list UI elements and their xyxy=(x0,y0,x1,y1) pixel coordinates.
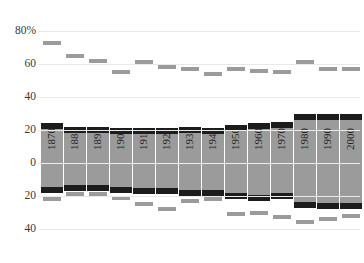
y-axis-tick-label: 40 xyxy=(4,223,36,235)
bar-top-cap xyxy=(294,114,316,120)
lower-marker-1910 xyxy=(135,202,153,206)
lower-marker-1950 xyxy=(227,212,245,216)
bar-top-cap xyxy=(271,122,293,128)
upper-marker-1940 xyxy=(204,72,222,76)
upper-marker-1930 xyxy=(181,67,199,71)
gridline-0-4 xyxy=(38,163,360,164)
bar-bottom-cap xyxy=(133,188,155,194)
upper-marker-1970 xyxy=(273,70,291,74)
lower-marker-1990 xyxy=(319,217,337,221)
upper-marker-1990 xyxy=(319,67,337,71)
bar-label-1880: 1880 xyxy=(69,128,80,150)
bar-label-1990: 1990 xyxy=(322,128,333,150)
range-bar-chart: 80%60402002040 1870188018901900191019201… xyxy=(0,0,364,263)
gridline-80-0 xyxy=(38,31,360,32)
upper-marker-1880 xyxy=(66,54,84,58)
bar-label-1890: 1890 xyxy=(92,128,103,150)
bar-label-1910: 1910 xyxy=(138,128,149,150)
bar-bottom-cap xyxy=(87,185,109,191)
gridline-20-3 xyxy=(38,130,360,131)
bar-label-1980: 1980 xyxy=(299,128,310,150)
lower-marker-1930 xyxy=(181,199,199,203)
bar-label-1970: 1970 xyxy=(276,128,287,150)
y-axis-tick-label: 40 xyxy=(4,91,36,103)
upper-marker-1960 xyxy=(250,69,268,73)
lower-marker-2000 xyxy=(342,214,360,218)
upper-marker-1900 xyxy=(112,70,130,74)
gridline-60-1 xyxy=(38,64,360,65)
bar-bottom-cap xyxy=(41,187,63,193)
bar-label-1960: 1960 xyxy=(253,128,264,150)
bar-top-cap xyxy=(317,114,339,120)
bar-label-1900: 1900 xyxy=(115,128,126,150)
bar-bottom-cap xyxy=(294,202,316,208)
bar-bottom-cap xyxy=(110,187,132,193)
bar-bottom-cap xyxy=(317,203,339,209)
upper-marker-2000 xyxy=(342,67,360,71)
bar-top-cap xyxy=(340,114,362,120)
lower-marker-1870 xyxy=(43,197,61,201)
y-axis-tick-label: 60 xyxy=(4,58,36,70)
y-axis-tick-label: 20 xyxy=(4,190,36,202)
upper-marker-1870 xyxy=(43,41,61,45)
gridline-20-5 xyxy=(38,196,360,197)
upper-marker-1890 xyxy=(89,59,107,63)
bar-bottom-cap xyxy=(340,203,362,209)
bar-label-1920: 1920 xyxy=(161,128,172,150)
lower-marker-1970 xyxy=(273,215,291,219)
bar-label-2000: 2000 xyxy=(345,128,356,150)
bar-label-1930: 1930 xyxy=(184,128,195,150)
plot-area: 1870188018901900191019201930194019501960… xyxy=(38,0,362,263)
bar-bottom-cap xyxy=(156,188,178,194)
bar-label-1940: 1940 xyxy=(207,128,218,150)
lower-marker-1920 xyxy=(158,207,176,211)
y-axis-tick-label: 20 xyxy=(4,124,36,136)
upper-marker-1920 xyxy=(158,65,176,69)
lower-marker-1940 xyxy=(204,197,222,201)
bar-label-1870: 1870 xyxy=(46,128,57,150)
lower-marker-1980 xyxy=(296,220,314,224)
bar-bottom-cap xyxy=(64,185,86,191)
bar-label-1950: 1950 xyxy=(230,128,241,150)
gridline-40-2 xyxy=(38,97,360,98)
upper-marker-1950 xyxy=(227,67,245,71)
y-axis-tick-label: 0 xyxy=(4,157,36,169)
gridline-40-6 xyxy=(38,229,360,230)
y-axis-tick-label: 80% xyxy=(4,25,36,37)
lower-marker-1960 xyxy=(250,211,268,215)
